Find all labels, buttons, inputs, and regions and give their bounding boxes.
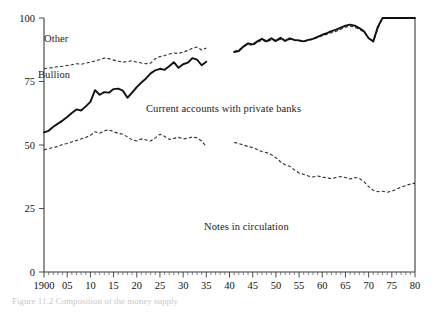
y-tick-label: 75 xyxy=(25,76,36,87)
x-tick-label: 45 xyxy=(247,280,258,291)
series-line-bullion xyxy=(234,18,415,52)
y-tick-label: 100 xyxy=(19,13,35,24)
y-tick-label: 25 xyxy=(25,203,36,214)
x-tick-label: 20 xyxy=(132,280,143,291)
series-line-notes-in-circulation xyxy=(44,130,206,150)
y-tick-label: 50 xyxy=(25,140,36,151)
x-tick-label: 75 xyxy=(387,280,398,291)
x-tick-label: 80 xyxy=(410,280,421,291)
x-tick-label: 50 xyxy=(271,280,282,291)
y-tick-label: 0 xyxy=(30,267,35,278)
x-tick-label: 70 xyxy=(363,280,374,291)
x-tick-label: 30 xyxy=(178,280,189,291)
x-tick-label: 1900 xyxy=(34,280,55,291)
chart-axes xyxy=(44,18,415,272)
figure-caption: Figure 11.2 Composition of the money sup… xyxy=(12,296,312,310)
x-tick-label: 25 xyxy=(155,280,166,291)
x-tick-label: 05 xyxy=(62,280,73,291)
series-label-bullion: Bullion xyxy=(38,69,70,80)
x-tick-label: 60 xyxy=(317,280,328,291)
x-tick-label: 15 xyxy=(108,280,119,291)
y-axis-ticks xyxy=(39,18,44,272)
x-tick-label: 40 xyxy=(224,280,235,291)
x-axis-ticks xyxy=(44,272,415,278)
figure-container: 0255075100 19000510152025303540455055606… xyxy=(0,0,435,314)
x-axis-tick-labels: 190005101520253035404550556065707580 xyxy=(34,280,421,291)
x-tick-label: 65 xyxy=(340,280,351,291)
series-label-other: Other xyxy=(44,33,68,44)
y-axis-tick-labels: 0255075100 xyxy=(19,13,35,278)
x-tick-label: 35 xyxy=(201,280,212,291)
series-label-notes-in-circulation: Notes in circulation xyxy=(204,221,289,232)
x-tick-label: 55 xyxy=(294,280,305,291)
series-label-current-accounts: Current accounts with private banks xyxy=(146,103,301,114)
line-chart: 0255075100 19000510152025303540455055606… xyxy=(0,0,435,314)
x-tick-label: 10 xyxy=(85,280,96,291)
series-line-notes-in-circulation xyxy=(234,142,415,192)
